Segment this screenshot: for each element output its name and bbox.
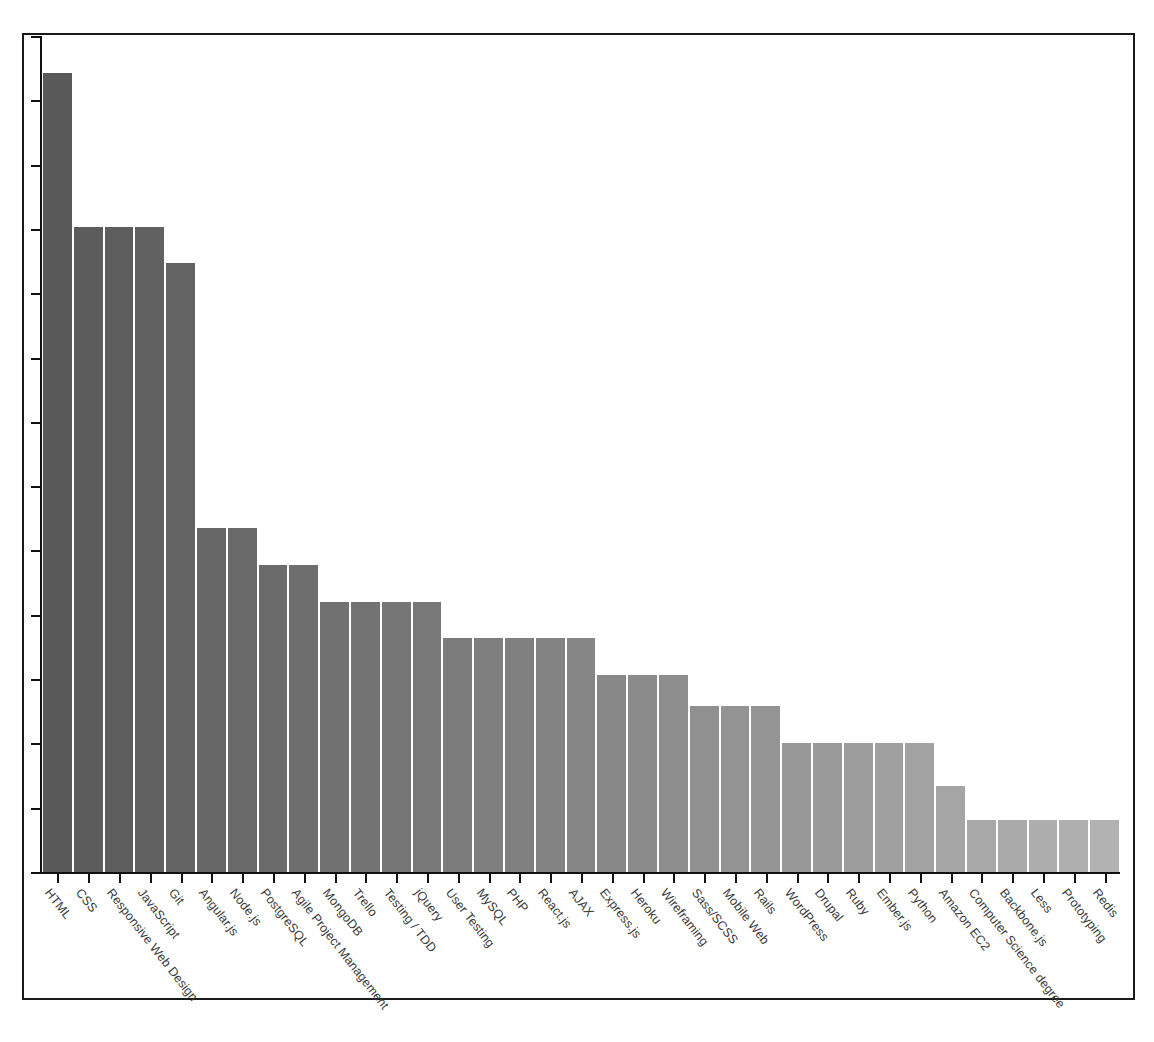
x-axis-label: React.js bbox=[535, 886, 574, 931]
x-axis-label: Mobile Web bbox=[720, 886, 772, 947]
bar-ruby bbox=[843, 743, 874, 872]
y-tick bbox=[31, 743, 40, 745]
x-axis-label: Less bbox=[1028, 886, 1056, 916]
x-tick bbox=[396, 874, 398, 883]
x-tick bbox=[335, 874, 337, 883]
y-tick bbox=[31, 100, 40, 102]
bar-mysql bbox=[473, 638, 504, 872]
bar-backbone-js bbox=[997, 820, 1028, 872]
y-tick bbox=[31, 486, 40, 488]
x-tick bbox=[57, 874, 59, 883]
x-tick bbox=[766, 874, 768, 883]
bar-git bbox=[165, 263, 196, 872]
y-tick bbox=[31, 550, 40, 552]
x-axis-label: Testing / TDD bbox=[381, 886, 439, 955]
y-tick bbox=[31, 615, 40, 617]
x-tick bbox=[304, 874, 306, 883]
x-axis-label: CSS bbox=[73, 886, 100, 915]
bar-redis bbox=[1089, 820, 1120, 872]
y-tick bbox=[31, 229, 40, 231]
x-tick bbox=[550, 874, 552, 883]
y-tick bbox=[31, 358, 40, 360]
bar-jquery bbox=[412, 602, 443, 872]
x-tick bbox=[981, 874, 983, 883]
x-tick bbox=[181, 874, 183, 883]
x-axis-label: Git bbox=[166, 886, 187, 907]
x-tick bbox=[951, 874, 953, 883]
bar-prototyping bbox=[1058, 820, 1089, 872]
y-tick bbox=[31, 872, 40, 874]
bar-trello bbox=[350, 602, 381, 872]
bar-postgresql bbox=[258, 565, 289, 872]
x-tick bbox=[519, 874, 521, 883]
x-tick bbox=[242, 874, 244, 883]
bar-ajax bbox=[566, 638, 597, 872]
x-axis-label: Agile Project Management bbox=[289, 886, 392, 1012]
x-axis-label: Prototyping bbox=[1059, 886, 1110, 945]
x-axis-label: Responsive Web Design bbox=[104, 886, 200, 1004]
x-axis-label: MongoDB bbox=[320, 886, 366, 939]
x-axis-label: Wireframing bbox=[658, 886, 711, 949]
x-tick bbox=[735, 874, 737, 883]
x-axis-label: Angular.js bbox=[196, 886, 241, 939]
x-tick bbox=[1074, 874, 1076, 883]
x-tick bbox=[704, 874, 706, 883]
x-tick bbox=[150, 874, 152, 883]
y-tick bbox=[31, 165, 40, 167]
x-axis-label: Ember.js bbox=[874, 886, 915, 934]
x-axis-label: User Testing bbox=[443, 886, 497, 950]
x-tick bbox=[920, 874, 922, 883]
bar-css bbox=[73, 227, 104, 872]
x-axis-label: Computer Science degree bbox=[966, 886, 1068, 1011]
x-axis-label: Ruby bbox=[843, 886, 872, 918]
x-tick bbox=[211, 874, 213, 883]
x-axis-label: Backbone.js bbox=[997, 886, 1051, 949]
bar-mongodb bbox=[319, 602, 350, 872]
bar-javascript bbox=[134, 227, 165, 872]
bar-series bbox=[42, 36, 1120, 872]
bar-mobile-web bbox=[720, 706, 751, 872]
bar-angular-js bbox=[196, 528, 227, 872]
x-axis-label: Trello bbox=[350, 886, 380, 919]
x-axis-label: WordPress bbox=[782, 886, 832, 944]
x-tick bbox=[88, 874, 90, 883]
bar-python bbox=[904, 743, 935, 872]
x-axis-label: Sass/SCSS bbox=[689, 886, 741, 947]
x-axis-label: MySQL bbox=[474, 886, 511, 928]
bar-drupal bbox=[812, 743, 843, 872]
bar-wireframing bbox=[658, 675, 689, 872]
x-tick bbox=[827, 874, 829, 883]
y-tick bbox=[31, 293, 40, 295]
x-axis-label: jQuery bbox=[412, 886, 446, 924]
x-tick bbox=[458, 874, 460, 883]
x-tick bbox=[1012, 874, 1014, 883]
bar-heroku bbox=[627, 675, 658, 872]
bar-computer-science-degree bbox=[966, 820, 997, 872]
bar-amazon-ec2 bbox=[935, 786, 966, 872]
x-axis-label: Express.js bbox=[597, 886, 644, 941]
x-tick bbox=[612, 874, 614, 883]
bar-rails bbox=[750, 706, 781, 872]
x-axis-line bbox=[40, 872, 1120, 874]
x-tick bbox=[489, 874, 491, 883]
x-axis-label: AJAX bbox=[566, 886, 597, 920]
x-tick bbox=[643, 874, 645, 883]
x-axis-label: PostgreSQL bbox=[258, 886, 312, 949]
x-tick bbox=[673, 874, 675, 883]
x-tick bbox=[1043, 874, 1045, 883]
y-tick bbox=[31, 808, 40, 810]
x-axis-label: HTML bbox=[42, 886, 74, 922]
bar-sass-scss bbox=[689, 706, 720, 872]
x-axis-label: Amazon EC2 bbox=[936, 886, 993, 953]
x-axis-label: Node.js bbox=[227, 886, 265, 929]
bar-wordpress bbox=[781, 743, 812, 872]
bar-responsive-web-design bbox=[104, 227, 135, 872]
x-tick bbox=[119, 874, 121, 883]
bar-chart-plot-area: HTMLCSSResponsive Web DesignJavaScriptGi… bbox=[0, 0, 1154, 1042]
bar-agile-project-management bbox=[288, 565, 319, 872]
x-axis-label: Rails bbox=[751, 886, 779, 917]
x-axis-label: Redis bbox=[1090, 886, 1121, 920]
x-tick bbox=[797, 874, 799, 883]
x-tick bbox=[273, 874, 275, 883]
bar-php bbox=[504, 638, 535, 872]
